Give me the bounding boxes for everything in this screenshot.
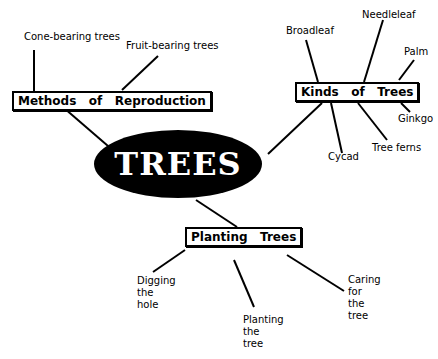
branch-methods-of-reproduction: Methods of Reproduction	[12, 91, 212, 111]
leaf-broadleaf: Broadleaf	[286, 25, 334, 37]
leaf-cycad: Cycad	[328, 151, 359, 163]
leaf-tree-ferns: Tree ferns	[372, 142, 421, 154]
leaf-digging-the-hole: Digging the hole	[137, 275, 176, 311]
branch-planting-trees: Planting Trees	[185, 227, 302, 247]
leaf-planting-the-tree: Planting the tree	[243, 314, 284, 350]
leaf-needleleaf: Needleleaf	[362, 9, 416, 21]
leaf-ginkgo: Ginkgo	[398, 113, 433, 125]
central-topic-label: TREES	[114, 145, 241, 183]
leaf-caring-for-the-tree: Caring for the tree	[348, 274, 381, 322]
central-topic: TREES	[94, 130, 262, 198]
branch-kinds-of-trees: Kinds of Trees	[295, 82, 419, 102]
leaf-palm: Palm	[404, 46, 428, 58]
mind-map: TREES Methods of Reproduction Cone-beari…	[0, 0, 438, 359]
leaf-cone-bearing-trees: Cone-bearing trees	[24, 31, 120, 43]
leaf-fruit-bearing-trees: Fruit-bearing trees	[126, 40, 219, 52]
